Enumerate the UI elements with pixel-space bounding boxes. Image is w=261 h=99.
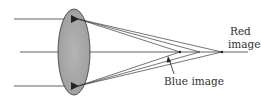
blue-image-pointer-arrowhead-icon	[167, 56, 172, 63]
blue-image-label: Blue image	[164, 75, 224, 87]
red-image-label-line2: image	[228, 38, 261, 50]
refracted-rays-top	[78, 19, 222, 52]
lens	[58, 9, 90, 95]
chromatic-aberration-diagram: Red image Blue image	[0, 0, 261, 99]
red-focal-point	[221, 51, 223, 53]
blue-focal-point	[179, 51, 181, 53]
red-image-label-line1: Red	[230, 25, 251, 37]
